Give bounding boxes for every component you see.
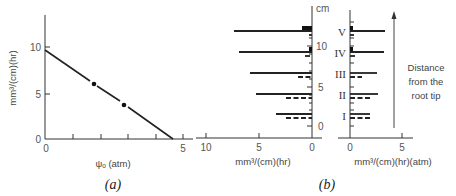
arrow-up-icon (392, 11, 397, 19)
panel-b-center-tick-10: 10 (316, 41, 328, 52)
panel-a-ytick-0: 0 (35, 134, 41, 145)
panel-a-fit-line (45, 50, 90, 81)
panel-a-data-point (92, 82, 97, 87)
panel-b-right-filled-block (350, 47, 353, 51)
arrow-label-line2: from the (409, 76, 444, 87)
panel-b-right-solid-bars (350, 31, 385, 114)
panel-b-left-xtick-0: 0 (309, 142, 315, 153)
panel-a-xlabel: ψₒ (atm) (95, 158, 130, 169)
panel-b-left-filled-block (302, 26, 312, 30)
panel-b-left-xtick-10: 10 (200, 142, 212, 153)
panel-b-left-solid-bars (234, 31, 312, 114)
segment-label-IV: IV (334, 47, 346, 59)
panel-b-left-filled-block (309, 47, 312, 51)
panel-a: 10 5 0 0 5 mm³/(cm)(hr) ψₒ (atm) (a) (7, 15, 193, 193)
panel-b-left-xtick-5: 5 (256, 142, 262, 153)
panel-a-xtick-5: 5 (180, 143, 186, 154)
figure: 10 5 0 0 5 mm³/(cm)(hr) ψₒ (atm) (a) 10 … (0, 0, 456, 196)
panel-b-right-xtick-0: 0 (347, 142, 353, 153)
panel-b-right-filled-block (350, 26, 353, 30)
segment-label-I: I (342, 110, 346, 122)
segment-label-II: II (339, 89, 347, 101)
panel-b-center-axis-unit: cm (316, 3, 329, 14)
panel-a-data-point (122, 103, 127, 108)
arrow-label-line3: root tip (411, 90, 440, 101)
panel-b-center-tick-0: 0 (318, 121, 324, 132)
panel-b-left: 10 5 0 mm³/(cm)(hr) cm 0 5 10 (196, 3, 329, 167)
panel-a-ytick-10: 10 (30, 42, 42, 53)
panel-b-left-dashed-bars (286, 35, 312, 118)
panel-b-center-tick-5: 5 (318, 82, 324, 93)
panel-a-ytick-5: 5 (35, 89, 41, 100)
panel-a-label: (a) (105, 177, 122, 193)
panel-b-label: (b) (319, 177, 336, 193)
panel-b-right-xlabel: mm³/(cm)(hr)(atm) (354, 156, 432, 167)
panel-b-right-xtick-5: 5 (399, 142, 405, 153)
panel-b-right-dashed-bars (350, 35, 371, 118)
panel-a-ylabel: mm³/(cm)(hr) (7, 50, 18, 105)
panel-b-right: 0 5 mm³/(cm)(hr)(atm) I II III IV V (334, 10, 444, 167)
segment-label-V: V (338, 26, 346, 38)
panel-a-xtick-0: 0 (43, 143, 49, 154)
arrow-label-line1: Distance (408, 62, 445, 73)
segment-label-III: III (335, 68, 346, 80)
panel-b-left-xlabel: mm³/(cm)(hr) (235, 156, 290, 167)
